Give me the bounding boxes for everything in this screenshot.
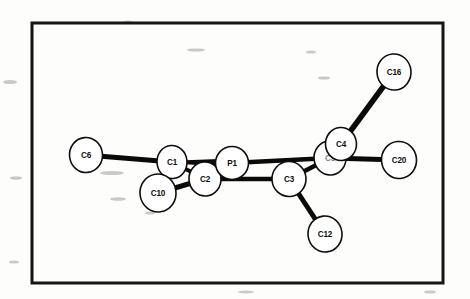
scan-speck	[187, 48, 205, 51]
atom-label-c1: C1	[167, 158, 178, 167]
atom-label-c4: C4	[336, 140, 347, 149]
atom-c3: C3	[271, 160, 307, 197]
scan-speck	[10, 176, 22, 180]
atom-label-c20: C20	[392, 156, 407, 165]
scan-speck	[306, 51, 316, 54]
atom-label-c10: C10	[151, 189, 166, 198]
scan-speck	[110, 197, 126, 201]
scan-speck	[424, 290, 436, 293]
atom-label-p1: P1	[227, 159, 237, 168]
atom-c6: C6	[68, 136, 104, 174]
atom-label-c3: C3	[284, 175, 295, 184]
atom-label-c12: C12	[318, 230, 333, 239]
scan-speck	[100, 171, 124, 175]
atom-label-c6: C6	[81, 151, 92, 160]
molecular-structure-figure: C6C1C10C2P1C3C12C5C4C16C20	[0, 0, 470, 299]
scan-speck	[318, 76, 330, 79]
scan-speck	[9, 260, 19, 263]
scan-speck	[238, 291, 254, 294]
atom-label-c2: C2	[200, 175, 211, 184]
atom-c20: C20	[380, 140, 418, 180]
scan-speck	[3, 80, 17, 84]
atom-label-c16: C16	[387, 68, 402, 77]
atom-nodes-layer: C6C1C10C2P1C3C12C5C4C16C20	[68, 53, 418, 254]
atom-p1: P1	[216, 147, 249, 180]
atom-c12: C12	[306, 214, 344, 253]
